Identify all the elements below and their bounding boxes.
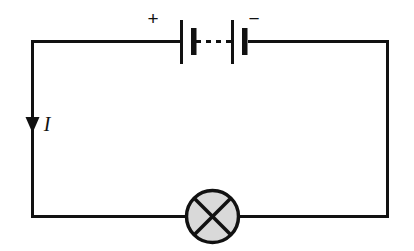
current-label: I <box>43 113 52 135</box>
circuit-canvas: + − I <box>0 0 414 251</box>
circuit-diagram: + − I <box>0 0 414 251</box>
positive-sign-label: + <box>147 8 158 29</box>
battery-cell1-short-plate <box>191 28 197 55</box>
negative-sign-label: − <box>248 8 259 29</box>
battery-cell2-short-plate <box>242 28 248 55</box>
current-direction-arrow-icon <box>26 117 40 133</box>
